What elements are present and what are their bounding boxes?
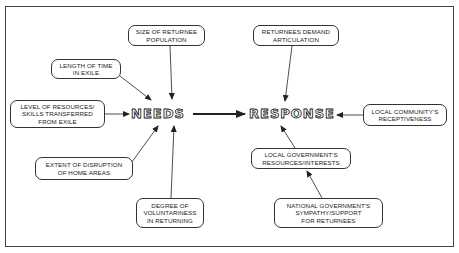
factor-label: LOCAL COMMUNITY'S RECEPTIVENESS bbox=[372, 108, 439, 123]
factor-level-of-resources: LEVEL OF RESOURCES/ SKILLS TRANSFERRED F… bbox=[10, 100, 105, 128]
arrow-voluntariness-to-needs bbox=[171, 126, 174, 198]
factor-local-community-receptiveness: LOCAL COMMUNITY'S RECEPTIVENESS bbox=[363, 104, 447, 126]
arrow-localgov-to-response bbox=[281, 126, 295, 148]
factor-degree-of-voluntariness: DEGREE OF VOLUNTARINESS IN RETURNING bbox=[136, 198, 204, 228]
factor-label: LOCAL GOVERNMENT'S RESOURCES/INTERESTS bbox=[262, 151, 340, 166]
factor-label: EXTENT OF DISRUPTION OF HOME AREAS bbox=[46, 161, 123, 176]
factor-length-of-time-in-exile: LENGTH OF TIME IN EXILE bbox=[51, 59, 121, 79]
factor-label: RETURNEES DEMAND ARTICULATION bbox=[262, 28, 330, 43]
factor-label: DEGREE OF VOLUNTARINESS IN RETURNING bbox=[143, 202, 196, 224]
arrow-demand-to-response bbox=[285, 46, 292, 101]
factor-label: NATIONAL GOVERNMENT'S SYMPATHY/SUPPORT F… bbox=[287, 202, 371, 224]
factor-label: LEVEL OF RESOURCES/ SKILLS TRANSFERRED F… bbox=[21, 103, 95, 125]
factor-national-government-sympathy: NATIONAL GOVERNMENT'S SYMPATHY/SUPPORT F… bbox=[274, 198, 383, 228]
factor-returnees-demand-articulation: RETURNEES DEMAND ARTICULATION bbox=[253, 25, 339, 46]
factor-extent-of-disruption: EXTENT OF DISRUPTION OF HOME AREAS bbox=[35, 157, 133, 180]
arrow-nationalgov-to-localgov bbox=[307, 171, 322, 198]
response-node: RESPONSE bbox=[249, 106, 335, 121]
arrow-disruption-to-needs bbox=[132, 126, 158, 162]
factor-size-of-returnee-population: SIZE OF RETURNEE POPULATION bbox=[128, 25, 205, 46]
arrow-length-to-needs bbox=[120, 76, 151, 100]
needs-node: NEEDS bbox=[131, 106, 185, 121]
arrow-size-to-needs bbox=[170, 46, 172, 99]
factor-local-government-resources: LOCAL GOVERNMENT'S RESOURCES/INTERESTS bbox=[251, 148, 351, 169]
factor-label: SIZE OF RETURNEE POPULATION bbox=[136, 28, 197, 43]
factor-label: LENGTH OF TIME IN EXILE bbox=[59, 62, 112, 77]
